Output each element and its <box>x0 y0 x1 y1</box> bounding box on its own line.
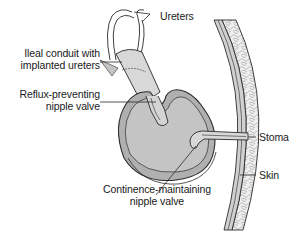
label-stoma: Stoma <box>259 131 289 143</box>
label-skin: Skin <box>259 169 279 181</box>
label-ureters: Ureters <box>160 10 194 22</box>
label-reflux-valve: Reflux-preventing nipple valve <box>14 88 100 112</box>
label-ileal-conduit: Ileal conduit with implanted ureters <box>16 47 100 71</box>
label-continence-valve: Continence-maintaining nipple valve <box>92 183 222 207</box>
